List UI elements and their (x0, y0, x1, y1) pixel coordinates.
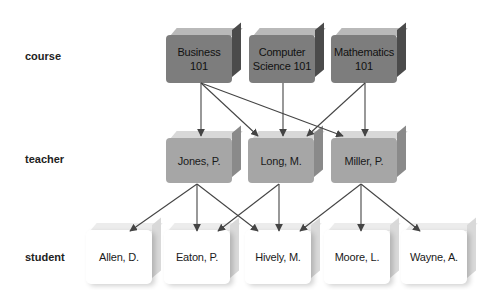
teacher-label: Jones, P. (178, 154, 221, 168)
edge-miller-wayne (361, 184, 420, 231)
student-label: Moore, L. (335, 250, 380, 264)
edge-math-long (307, 83, 365, 136)
student-label: Eaton, P. (176, 250, 218, 264)
course-label: Business101 (177, 45, 220, 73)
edge-business-long (201, 83, 258, 136)
course-label-line2: Science 101 (253, 60, 311, 72)
student-label: Allen, D. (99, 250, 139, 264)
student-label: Hively, M. (255, 250, 300, 264)
teacher-label: Long, M. (260, 154, 301, 168)
course-label-line2: 101 (190, 60, 208, 72)
edges-layer (0, 0, 493, 290)
course-label-line2: 101 (355, 60, 373, 72)
course-label: Mathematics101 (334, 45, 394, 73)
student-label: Wayne, A. (410, 250, 458, 264)
course-label-line1: Mathematics (334, 46, 394, 58)
course-label-line1: Business (177, 46, 220, 58)
course-label: ComputerScience 101 (253, 45, 311, 73)
edge-business-miller (201, 83, 343, 136)
teacher-label: Miller, P. (345, 154, 384, 168)
edge-miller-hively (300, 184, 361, 231)
course-label-line1: Computer (259, 46, 306, 58)
edge-jones-allen (130, 184, 197, 231)
